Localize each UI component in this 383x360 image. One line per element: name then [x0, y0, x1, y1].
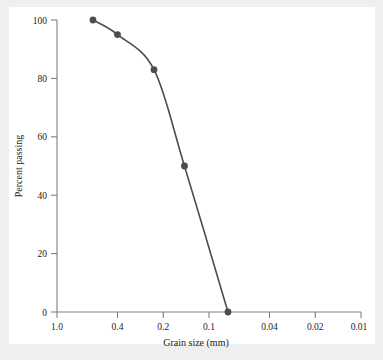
y-tick-label: 80: [38, 74, 48, 84]
y-axis-tick-labels: 0 20 40 60 80 100: [33, 16, 48, 318]
y-tick-label: 20: [38, 249, 48, 259]
x-axis-ticks: [57, 312, 361, 318]
data-series-markers: [90, 17, 232, 316]
x-tick-label: 0.1: [203, 322, 215, 332]
data-point-marker: [114, 31, 121, 38]
x-axis-title: Grain size (mm): [163, 337, 229, 349]
x-tick-label: 1.0: [51, 322, 63, 332]
y-tick-label: 60: [38, 132, 48, 142]
figure-container: 0 20 40 60 80 100 1.0 0.4 0.2 0.1 0.04 0…: [0, 0, 383, 360]
y-axis-ticks: [51, 20, 57, 312]
data-point-marker: [225, 309, 232, 316]
x-tick-label: 0.4: [112, 322, 124, 332]
x-tick-label: 0.02: [307, 322, 324, 332]
data-point-marker: [181, 163, 188, 170]
x-tick-label: 0.04: [261, 322, 278, 332]
x-tick-label: 0.01: [351, 322, 368, 332]
y-tick-label: 40: [38, 191, 48, 201]
axes: [57, 20, 361, 312]
data-point-marker: [90, 17, 97, 24]
data-series-line: [93, 20, 228, 312]
data-point-marker: [151, 66, 158, 73]
y-axis-title: Percent passing: [13, 135, 24, 198]
grain-size-distribution-chart: 0 20 40 60 80 100 1.0 0.4 0.2 0.1 0.04 0…: [0, 0, 383, 360]
y-tick-label: 0: [42, 308, 47, 318]
y-tick-label: 100: [33, 16, 48, 26]
x-axis-tick-labels: 1.0 0.4 0.2 0.1 0.04 0.02 0.01: [51, 322, 368, 332]
x-tick-label: 0.2: [157, 322, 169, 332]
